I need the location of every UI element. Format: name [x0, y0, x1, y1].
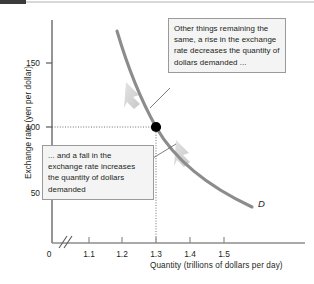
x-axis-break-icon	[59, 236, 72, 248]
annotation-callout-rise: Other things remaining the same, a rise …	[168, 18, 286, 73]
x-tick-label-1-4: 1.4	[178, 249, 202, 259]
annotation-callout-fall: ... and a fall in the exchange rate incr…	[42, 145, 154, 200]
chart-figure: Exchange rate (yen per dollar) Quantity …	[0, 0, 314, 284]
x-tick-label-1-1: 1.1	[77, 249, 101, 259]
origin-label: 0	[42, 249, 56, 259]
y-tick-label-150: 150	[18, 58, 40, 68]
x-axis-title: Quantity (trillions of dollars per day)	[150, 261, 283, 270]
equilibrium-point-marker	[151, 122, 161, 132]
demand-curve-label: D	[258, 198, 265, 209]
y-tick-label-100: 100	[18, 122, 40, 132]
x-tick-label-1-2: 1.2	[110, 249, 134, 259]
y-tick-label-50: 50	[18, 188, 40, 198]
x-tick-label-1-3: 1.3	[144, 249, 168, 259]
x-tick-label-1-5: 1.5	[212, 249, 236, 259]
callout-1-leader-line	[150, 88, 170, 108]
